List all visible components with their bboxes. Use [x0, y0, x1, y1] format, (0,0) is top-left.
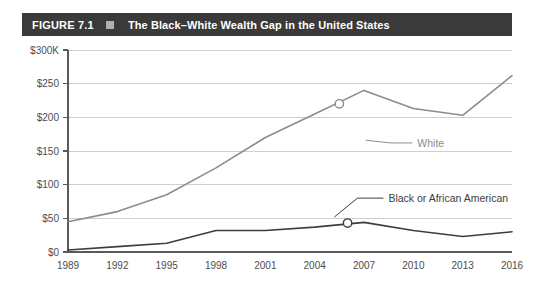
x-axis-ticks-group: 1989199219951998200120042007201020132016: [57, 260, 524, 271]
figure-header-bar: FIGURE 7.1 The Black–White Wealth Gap in…: [22, 13, 512, 36]
figure-title: The Black–White Wealth Gap in the United…: [128, 19, 390, 31]
x-axis-tick-label: 2013: [452, 260, 475, 271]
y-axis-tick-label: $250: [37, 78, 60, 89]
y-axis-tick-label: $200: [37, 112, 60, 123]
x-axis-tick-label: 2001: [254, 260, 277, 271]
x-axis-tick-label: 2007: [353, 260, 376, 271]
x-axis-tick-label: 1989: [57, 260, 80, 271]
white-label-leader-line: [366, 140, 413, 143]
x-axis-tick-label: 1995: [156, 260, 179, 271]
series-marker-point: [343, 219, 351, 227]
x-axis-tick-label: 1992: [106, 260, 129, 271]
line-chart-svg: $0$50$100$150$200$250$300K 1989199219951…: [0, 36, 542, 293]
data-series-group: [68, 76, 512, 250]
y-axis-tick-label: $0: [48, 247, 60, 258]
y-axis-tick-label: $150: [37, 146, 60, 157]
x-axis-tick-label: 2004: [304, 260, 327, 271]
series-label-black-or-african-american: Black or African American: [388, 192, 508, 204]
y-axis-ticks-group: $0$50$100$150$200$250$300K: [30, 45, 68, 258]
x-axis-tick-label: 2010: [402, 260, 425, 271]
series-annotations-group: WhiteBlack or African American: [334, 137, 508, 217]
series-marker-point: [335, 100, 343, 108]
series-line-black-or-african-american: [68, 222, 512, 250]
y-axis-tick-label: $300K: [30, 45, 59, 56]
square-marker-icon: [106, 21, 114, 29]
x-axis-tick-label: 2016: [501, 260, 524, 271]
black-label-leader-line: [334, 198, 383, 217]
x-axis-tick-label: 1998: [205, 260, 228, 271]
y-axis-tick-label: $100: [37, 179, 60, 190]
chart-plot-area: $0$50$100$150$200$250$300K 1989199219951…: [0, 36, 542, 293]
y-axis-tick-label: $50: [42, 213, 59, 224]
figure-container: FIGURE 7.1 The Black–White Wealth Gap in…: [0, 0, 542, 293]
series-label-white: White: [417, 137, 444, 149]
figure-number: FIGURE 7.1: [32, 19, 94, 31]
